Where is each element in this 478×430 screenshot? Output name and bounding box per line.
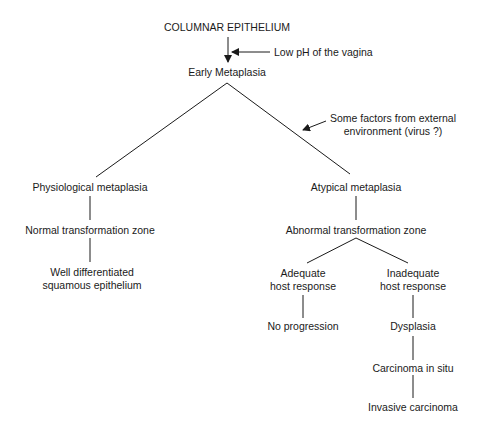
node-well-diff-line-2: squamous epithelium [42, 279, 141, 292]
line-early-to-physiological [96, 83, 227, 177]
diagram-canvas: COLUMNAR EPITHELIUM Low pH of the vagina… [0, 0, 478, 430]
node-inadequate-host-response: Inadequate host response [380, 267, 446, 293]
node-dysplasia: Dysplasia [390, 320, 436, 333]
node-columnar-epithelium: COLUMNAR EPITHELIUM [164, 21, 290, 34]
node-no-progression: No progression [267, 320, 338, 333]
node-well-diff-line-1: Well differentiated [42, 266, 141, 279]
line-abnormal-to-adequate [307, 238, 356, 263]
node-physiological-metaplasia: Physiological metaplasia [33, 181, 148, 194]
node-adequate-line-2: host response [270, 280, 336, 293]
node-well-differentiated: Well differentiated squamous epithelium [42, 266, 141, 292]
node-normal-transformation-zone: Normal transformation zone [25, 224, 155, 237]
node-adequate-line-1: Adequate [270, 267, 336, 280]
node-invasive-carcinoma: Invasive carcinoma [368, 401, 458, 414]
node-carcinoma-in-situ: Carcinoma in situ [372, 362, 453, 375]
node-inadequate-line-1: Inadequate [380, 267, 446, 280]
annotation-external-line-2: environment (virus ?) [330, 125, 456, 138]
annotation-external-factors: Some factors from external environment (… [330, 112, 456, 138]
node-early-metaplasia: Early Metaplasia [188, 66, 266, 79]
annotation-external-line-1: Some factors from external [330, 112, 456, 125]
node-inadequate-line-2: host response [380, 280, 446, 293]
line-abnormal-to-inadequate [356, 238, 408, 263]
node-atypical-metaplasia: Atypical metaplasia [311, 181, 401, 194]
node-adequate-host-response: Adequate host response [270, 267, 336, 293]
node-abnormal-transformation-zone: Abnormal transformation zone [286, 224, 427, 237]
annotation-low-ph: Low pH of the vagina [274, 46, 373, 59]
arrow-external-factors [303, 121, 326, 130]
